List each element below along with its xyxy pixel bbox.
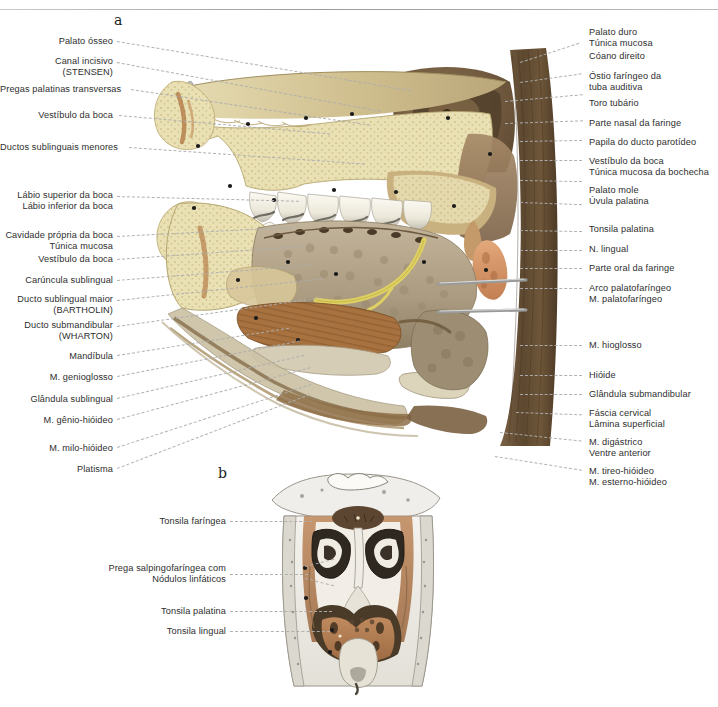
- leader-a-right-14: [520, 375, 582, 376]
- label-m-hioglosso: M. hioglosso: [589, 340, 718, 351]
- leader-b-2: [230, 574, 308, 575]
- label-cavidade-propria-da-boca: Cavidade própria da boca Túnica mucosa: [0, 230, 113, 251]
- label-tonsila-palatina-a: Tonsila palatina: [589, 224, 718, 235]
- label-vestibulo-tunica-bochecha: Vestíbulo da boca Túnica mucosa da boche…: [589, 156, 718, 177]
- leader-a-right-15: [520, 394, 582, 395]
- label-tonsila-faringea: Tonsila faríngea: [60, 516, 226, 527]
- label-prega-salpingofaringea: Prega salpingofaríngea com Nódulos linfá…: [40, 563, 226, 584]
- label-palato-osseo: Palato ósseo: [0, 36, 113, 47]
- label-ducto-sublingual-maior: Ducto sublingual maior (BARTHOLIN): [0, 294, 113, 315]
- label-n-lingual: N. lingual: [589, 244, 718, 255]
- leader-a-right-12: [520, 288, 582, 289]
- label-glandula-submandibular: Glândula submandibular: [589, 389, 718, 400]
- label-platisma: Platisma: [0, 464, 113, 475]
- label-palato-mole-uvula: Palato mole Úvula palatina: [589, 185, 718, 206]
- label-ducto-submandibular: Ducto submandibular (WHARTON): [0, 320, 113, 341]
- label-ostio-faringeo-tuba-auditiva: Óstio faríngeo da tuba auditiva: [589, 71, 718, 92]
- leader-b-4: [230, 631, 330, 632]
- leader-a-right-11: [520, 268, 582, 269]
- leader-b-1: [230, 521, 312, 522]
- figure-page: a b: [0, 0, 718, 707]
- label-canal-incisivo: Canal incisivo (STENSEN): [0, 56, 113, 77]
- leader-a-right-10: [520, 250, 582, 251]
- label-mandibula: Mandíbula: [0, 351, 113, 362]
- label-papila-ducto-parotideo: Papila do ducto parotídeo: [589, 137, 718, 148]
- label-glandula-sublingual: Glândula sublingual: [0, 394, 113, 405]
- leader-a-right-6: [520, 160, 582, 161]
- label-caruncula-sublingual: Carúncula sublingual: [0, 275, 113, 286]
- label-m-digastrico: M. digástrico Ventre anterior: [589, 437, 718, 458]
- label-tonsila-lingual: Tonsila lingual: [60, 626, 226, 637]
- label-palato-duro: Palato duro Túnica mucosa: [589, 27, 718, 48]
- label-coano-direito: Cóano direito: [589, 51, 718, 62]
- posterior-pharynx-illustration: [258, 470, 458, 695]
- label-fascia-cervical: Fáscia cervical Lâmina superficial: [589, 408, 718, 429]
- panel-letter-b: b: [218, 465, 227, 481]
- leader-b-3: [230, 611, 332, 612]
- label-toro-tubario: Toro tubário: [589, 98, 718, 109]
- label-arco-palatofaringeo: Arco palatofaríngeo M. palatofaríngeo: [589, 283, 718, 304]
- label-m-tireo-esterno-hioideo: M. tireo-hióideo M. esterno-hióideo: [589, 466, 718, 487]
- label-hioide: Hióide: [589, 370, 718, 381]
- label-tonsila-palatina-b: Tonsila palatina: [60, 606, 226, 617]
- leader-a-right-13: [520, 345, 582, 346]
- panel-letter-a: a: [114, 12, 122, 28]
- top-rule: [0, 9, 718, 10]
- label-vestibulo-da-boca-2: Vestíbulo da boca: [0, 254, 113, 265]
- label-m-milo-hioideo: M. milo-hióideo: [0, 443, 113, 454]
- label-parte-nasal-da-faringe: Parte nasal da faringe: [589, 118, 718, 129]
- label-m-genio-hioideo: M. gênio-hióideo: [0, 415, 113, 426]
- label-vestibulo-da-boca-1: Vestíbulo da boca: [0, 110, 113, 121]
- label-ductos-sublinguais-menores: Ductos sublinguais menores: [0, 142, 113, 153]
- label-parte-oral-da-faringe: Parte oral da faringe: [589, 263, 718, 274]
- label-m-genioglosso: M. genioglosso: [0, 372, 113, 383]
- label-pregas-palatinas-transversas: Pregas palatinas transversas: [0, 84, 113, 95]
- label-labio-superior-inferior: Lábio superior da boca Lábio inferior da…: [0, 190, 113, 211]
